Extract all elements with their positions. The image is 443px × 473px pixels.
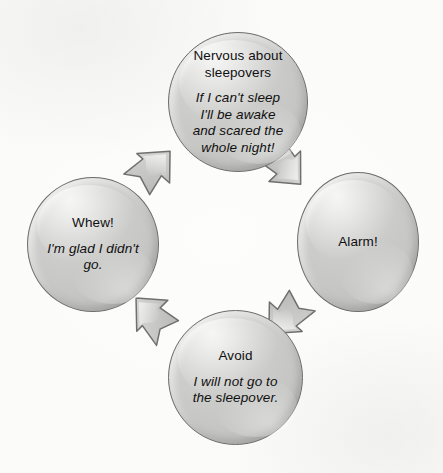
node-detail-nervous: If I can't sleep I'll be awake and scare… <box>175 90 302 156</box>
node-content: Whew! I'm glad I didn't go. <box>33 215 153 274</box>
node-title-alarm: Alarm! <box>303 234 413 251</box>
node-title-whew: Whew! <box>33 215 153 232</box>
node-title-nervous: Nervous about sleepovers <box>175 48 302 81</box>
cycle-node-nervous[interactable]: Nervous about sleepovers If I can't slee… <box>168 32 308 172</box>
node-content: Avoid I will not go to the sleepover. <box>174 348 296 407</box>
cycle-node-alarm[interactable]: Alarm! <box>297 172 419 312</box>
node-content: Alarm! <box>303 234 413 251</box>
cycle-node-avoid[interactable]: Avoid I will not go to the sleepover. <box>168 310 303 445</box>
node-title-avoid: Avoid <box>174 348 296 365</box>
cycle-node-whew[interactable]: Whew! I'm glad I didn't go. <box>27 177 159 312</box>
node-content: Nervous about sleepovers If I can't slee… <box>175 48 302 156</box>
anxiety-cycle-diagram: Nervous about sleepovers If I can't slee… <box>0 0 443 473</box>
node-detail-avoid: I will not go to the sleepover. <box>174 374 296 407</box>
node-detail-whew: I'm glad I didn't go. <box>33 241 153 274</box>
